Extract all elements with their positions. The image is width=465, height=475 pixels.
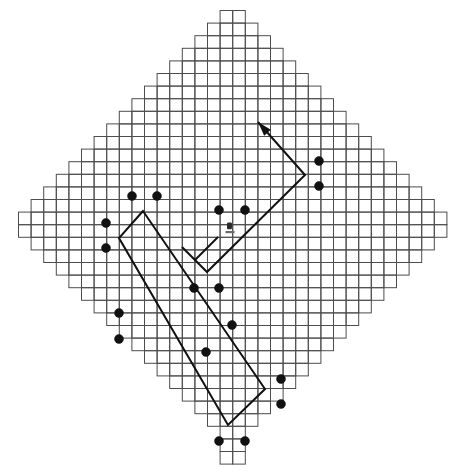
grid-cell [157,111,170,124]
grid-cell [145,237,158,250]
grid-cell [371,187,384,200]
grid-cell [170,288,183,301]
grid-cell [145,300,158,313]
grid-cell [296,174,309,187]
grid-cell [296,351,309,364]
grid-cell [321,99,334,112]
marker-dot [215,206,224,215]
grid-cell [170,124,183,137]
grid-cell [182,162,195,175]
grid-cell [245,149,258,162]
grid-cell [220,23,233,36]
grid-cell [208,137,221,150]
grid-cell [334,212,347,225]
grid-cell [397,237,410,250]
grid-cell [409,200,422,213]
grid-cell [69,187,82,200]
grid-cell [245,414,258,427]
grid-cell [119,111,132,124]
grid-cell [334,200,347,213]
grid-cell [384,237,397,250]
grid-cell [44,212,57,225]
grid-cell [208,48,221,61]
grid-cell [182,137,195,150]
grid-cell [44,250,57,263]
marker-dot [215,284,224,293]
grid-cell [233,23,246,36]
grid-cell [384,187,397,200]
grid-cell [296,237,309,250]
grid-cell [283,200,296,213]
grid-cell [397,250,410,263]
grid-cell [409,237,422,250]
grid-cell [258,275,271,288]
grid-cell [94,162,107,175]
grid-cell [44,225,57,238]
marker-dot [241,437,250,446]
marker-dot [315,157,324,166]
grid-cell [233,401,246,414]
grid-cell [321,338,334,351]
grid-cell [208,149,221,162]
grid-cell [384,275,397,288]
grid-cell [245,263,258,276]
grid-cell [409,225,422,238]
grid-cell [308,326,321,339]
grid-cell [334,225,347,238]
grid-cell [31,200,44,213]
grid-cell [195,74,208,87]
grid-cell [245,313,258,326]
grid-cell [258,300,271,313]
grid-cell [308,124,321,137]
grid-cell [346,212,359,225]
grid-cell [94,187,107,200]
grid-cell [94,137,107,150]
grid-cell [308,137,321,150]
grid-cell [371,275,384,288]
grid-cell [321,263,334,276]
grid-cell [296,338,309,351]
grid-cell [233,111,246,124]
grid-cell [397,200,410,213]
grid-cell [132,174,145,187]
grid-cell [220,174,233,187]
grid-cell [195,401,208,414]
grid-cell [195,149,208,162]
grid-cell [195,48,208,61]
grid-cell [283,326,296,339]
grid-cell [157,326,170,339]
grid-cell [271,237,284,250]
grid-cell [258,99,271,112]
grid-cell [182,376,195,389]
grid-cell [69,200,82,213]
grid-cell [82,212,95,225]
grid-cell [170,225,183,238]
grid-cell [271,48,284,61]
grid-cell [208,99,221,112]
grid-cell [245,376,258,389]
rotated-rectangle [119,211,265,425]
grid-cell [69,162,82,175]
grid-cell [334,187,347,200]
grid-cell [283,363,296,376]
grid-cell [233,174,246,187]
grid-cell [208,326,221,339]
grid-cell [145,99,158,112]
grid-cell [397,212,410,225]
grid-cell [182,389,195,402]
grid-cell [384,225,397,238]
grid-cell [170,376,183,389]
grid-cell [19,225,32,238]
grid-cell [182,263,195,276]
grid-cell [271,124,284,137]
grid-cell [321,225,334,238]
grid-cell [182,212,195,225]
grid-cell [334,162,347,175]
grid-cell [182,48,195,61]
grid-cell [371,250,384,263]
grid-cell [132,250,145,263]
grid-cell [170,99,183,112]
grid-cell [359,225,372,238]
grid-cell [195,326,208,339]
grid-cell [157,288,170,301]
